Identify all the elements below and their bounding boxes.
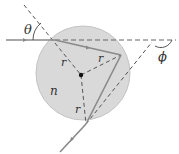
exit-ray: [60, 124, 86, 152]
droplet-diagram: θ ϕ n r r r: [0, 0, 179, 154]
phi-arc: [155, 40, 172, 48]
index-label: n: [50, 84, 58, 98]
r-label-reflection: r: [98, 52, 104, 65]
center-point: [79, 73, 83, 77]
phi-label: ϕ: [158, 49, 167, 64]
r-label-exit: r: [75, 103, 81, 116]
r-label-entry: r: [61, 56, 67, 69]
theta-arc: [33, 23, 41, 40]
arrow-icon: [23, 38, 27, 42]
theta-label: θ: [24, 22, 32, 37]
